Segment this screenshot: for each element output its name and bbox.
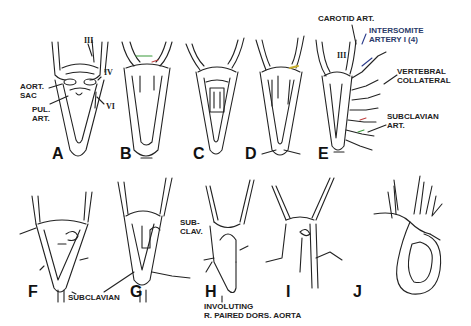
pul-art-label: PUL. ART.	[32, 105, 50, 123]
carotid-art-label: CAROTID ART.	[318, 14, 374, 23]
intersomite-line1: INTERSOMITE	[369, 26, 424, 35]
subclavian-art-label: SUBCLAVIAN ART.	[387, 112, 439, 130]
diagram-drawing	[0, 0, 471, 326]
stage-g-drawing	[104, 178, 190, 302]
intersomite-artery-label: INTERSOMITE ARTERY I (4)	[369, 26, 424, 44]
aortic-arch-diagram: A B C D E F G H I J III IV VI III AORT. …	[0, 0, 471, 326]
subclavian-label: SUBCLAVIAN	[68, 293, 120, 302]
stage-j-drawing	[374, 176, 442, 294]
arch-iii-label: III	[84, 37, 93, 45]
stage-a-drawing	[52, 40, 108, 156]
aort-sac-line2: SAC	[20, 91, 44, 100]
subclavian-art-line1: SUBCLAVIAN	[387, 112, 439, 121]
sub-clav-label: SUB- CLAV.	[180, 218, 203, 236]
aort-sac-label: AORT. SAC	[20, 82, 44, 100]
stage-e-drawing	[316, 40, 386, 152]
subclavian-art-line2: ART.	[387, 121, 439, 130]
vertebral-collateral-label: VERTEBRAL COLLATERAL	[397, 67, 451, 85]
stage-i-drawing	[266, 178, 342, 288]
aort-sac-line1: AORT.	[20, 82, 44, 91]
arch-iv-label: IV	[104, 69, 113, 77]
involuting-line2: R. PAIRED DORS. AORTA	[204, 311, 301, 320]
stage-label-d: D	[245, 146, 257, 162]
stage-label-b: B	[120, 146, 132, 162]
stage-b-drawing	[122, 42, 172, 158]
stage-label-c: C	[193, 146, 205, 162]
stage-label-g: G	[130, 284, 142, 300]
sub-clav-line1: SUB-	[180, 218, 203, 227]
leader-lines	[20, 25, 397, 302]
stage-label-h: H	[205, 284, 217, 300]
arch-vi-label: VI	[106, 103, 115, 111]
involuting-aorta-label: INVOLUTING R. PAIRED DORS. AORTA	[204, 302, 301, 320]
stage-label-e: E	[318, 146, 329, 162]
stage-h-drawing	[204, 180, 254, 293]
stage-label-j: J	[353, 284, 362, 300]
stage-f-drawing	[32, 192, 92, 302]
pul-art-line1: PUL.	[32, 105, 50, 114]
stage-label-a: A	[52, 146, 64, 162]
sub-clav-line2: CLAV.	[180, 227, 203, 236]
e-arch-iii-label: III	[337, 52, 346, 60]
stage-label-f: F	[28, 284, 38, 300]
vertebral-line1: VERTEBRAL	[397, 67, 451, 76]
intersomite-line2: ARTERY I (4)	[369, 35, 424, 44]
involuting-line1: INVOLUTING	[204, 302, 301, 311]
vertebral-line2: COLLATERAL	[397, 76, 451, 85]
stage-c-drawing	[186, 38, 244, 154]
stage-d-drawing	[256, 36, 304, 155]
pul-art-line2: ART.	[32, 114, 50, 123]
stage-label-i: I	[286, 284, 290, 300]
